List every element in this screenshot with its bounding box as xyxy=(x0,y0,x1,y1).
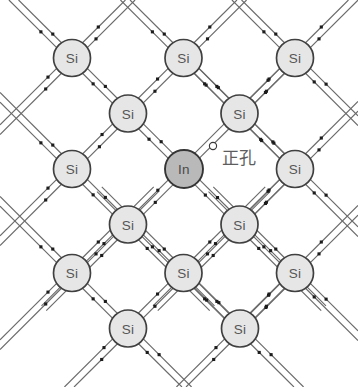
lattice-figure: SiSiSiSiSiSiInSiSiSiSiSiSiSiSi 正孔 xyxy=(0,0,358,387)
atom-label: Si xyxy=(289,51,302,66)
atom-label: Si xyxy=(122,218,135,233)
bond-electron xyxy=(325,194,328,197)
bond-line xyxy=(19,0,62,43)
bond-line xyxy=(305,0,348,43)
bond-electron xyxy=(94,252,97,255)
bond-electron xyxy=(146,351,149,354)
atom-label: Si xyxy=(177,51,190,66)
host-atom-si: Si xyxy=(54,255,91,292)
bond-electron xyxy=(214,346,217,349)
bond-electron xyxy=(151,30,154,33)
bond-electron xyxy=(212,254,215,257)
bond-line xyxy=(0,73,62,135)
bond-line xyxy=(74,343,118,387)
bond-electron xyxy=(151,245,154,248)
bond-line xyxy=(138,179,169,209)
bond-line xyxy=(82,288,113,319)
bond-line xyxy=(143,73,174,104)
bond-line xyxy=(143,123,174,153)
bond-line xyxy=(87,128,118,159)
bond-electron xyxy=(217,301,220,304)
bond-line xyxy=(194,73,225,104)
bond-electron xyxy=(156,189,159,192)
bond-electron xyxy=(156,77,159,80)
hole-marker-icon xyxy=(209,142,216,149)
bond-electron xyxy=(264,91,267,94)
bond-electron xyxy=(158,249,161,252)
bond-electron xyxy=(104,196,107,199)
bond-electron xyxy=(216,196,219,199)
bond-line xyxy=(250,283,281,314)
bond-electron xyxy=(94,37,97,40)
bond-line xyxy=(87,68,118,99)
host-atom-si: Si xyxy=(222,310,259,347)
atom-label: Si xyxy=(66,162,79,177)
bond-electron xyxy=(214,242,217,245)
bond-line xyxy=(305,101,358,154)
bond-electron xyxy=(44,87,47,90)
bond-electron xyxy=(264,202,267,205)
bond-electron xyxy=(270,353,273,356)
bond-electron xyxy=(206,37,209,40)
bond-electron xyxy=(46,291,49,294)
bond-line xyxy=(130,0,173,43)
bond-electron xyxy=(267,190,270,193)
bond-electron xyxy=(262,245,265,248)
host-atom-si: Si xyxy=(165,40,202,77)
atom-label: Si xyxy=(289,162,302,177)
bond-electron xyxy=(102,346,105,349)
bond-electron xyxy=(100,358,103,361)
atom-label: In xyxy=(178,162,190,177)
bond-line xyxy=(310,0,358,48)
bond-electron xyxy=(267,294,270,297)
bond-line xyxy=(138,343,182,387)
bond-electron xyxy=(317,148,320,151)
bond-electron xyxy=(147,138,150,141)
bond-electron xyxy=(205,84,208,87)
bond-electron xyxy=(163,248,166,251)
bond-electron xyxy=(260,139,263,142)
host-atom-si: Si xyxy=(110,95,147,132)
atoms-layer: SiSiSiSiSiSiInSiSiSiSiSiSiSiSi xyxy=(54,40,314,348)
bond-line xyxy=(64,338,113,387)
bond-electron xyxy=(320,240,323,243)
bond-line xyxy=(82,0,125,43)
bond-line xyxy=(138,283,169,314)
bond-line xyxy=(250,343,294,387)
bond-electron xyxy=(102,242,105,245)
bond-electron xyxy=(51,248,54,251)
bond-electron xyxy=(97,25,100,28)
bond-electron xyxy=(205,299,208,302)
bond-electron xyxy=(262,30,265,33)
bond-line xyxy=(305,205,358,258)
bond-line xyxy=(138,128,169,158)
bond-electron xyxy=(39,245,42,248)
atom-label: Si xyxy=(233,107,246,122)
bond-electron xyxy=(313,191,316,194)
bond-electron xyxy=(153,305,156,308)
bond-line xyxy=(82,184,113,215)
host-atom-si: Si xyxy=(54,151,91,188)
bond-electron xyxy=(257,247,260,250)
bond-electron xyxy=(153,90,156,93)
bond-line xyxy=(254,184,285,215)
bond-line xyxy=(255,338,304,387)
bond-electron xyxy=(100,254,103,257)
atom-label: Si xyxy=(177,266,190,281)
lattice-diagram: SiSiSiSiSiSiInSiSiSiSiSiSiSiSi xyxy=(0,0,358,387)
bond-electron xyxy=(258,351,261,354)
bond-electron xyxy=(51,33,54,36)
bond-electron xyxy=(146,247,149,250)
bond-electron xyxy=(46,187,49,190)
bond-line xyxy=(199,179,230,209)
bond-electron xyxy=(272,142,275,145)
bond-line xyxy=(0,102,57,159)
bond-line xyxy=(143,288,174,319)
host-atom-si: Si xyxy=(221,95,258,132)
bond-line xyxy=(310,215,358,263)
bond-electron xyxy=(317,252,320,255)
bond-electron xyxy=(325,298,328,301)
bond-line xyxy=(143,184,174,214)
bond-line xyxy=(82,123,113,154)
bond-electron xyxy=(44,198,47,201)
